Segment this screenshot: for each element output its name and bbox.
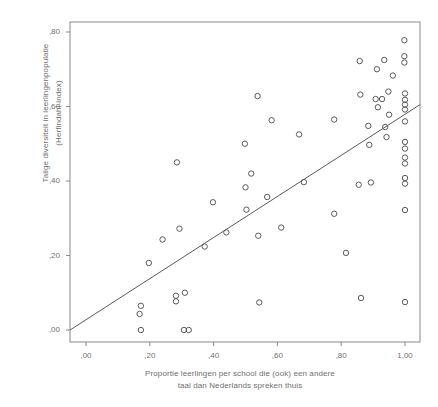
data-point	[146, 260, 151, 265]
data-point	[137, 311, 142, 316]
data-point	[331, 117, 336, 122]
data-point	[301, 179, 306, 184]
data-point	[402, 119, 407, 124]
data-point-group	[137, 37, 408, 332]
scatter-plot-figure: Talige diversiteit in leerlingenpopulati…	[0, 0, 438, 407]
x-axis-tick-label: ,00	[68, 351, 104, 360]
data-point	[356, 182, 361, 187]
data-point	[160, 237, 165, 242]
data-point	[202, 244, 207, 249]
data-point	[384, 134, 389, 139]
data-point	[382, 57, 387, 62]
data-point	[343, 250, 348, 255]
data-point	[174, 160, 179, 165]
data-point	[386, 112, 391, 117]
y-axis-title-line2: (Herfindahl-index)	[52, 0, 65, 243]
data-point	[390, 73, 395, 78]
y-axis-title-line1: Talige diversiteit in leerlingenpopulati…	[39, 0, 52, 243]
x-axis-tick-label: ,80	[323, 351, 359, 360]
data-point	[402, 37, 407, 42]
data-point	[366, 123, 371, 128]
y-axis-tick-label: ,80	[30, 27, 60, 36]
plot-canvas	[0, 0, 438, 407]
data-point	[257, 300, 262, 305]
x-axis-title: Proportie leerlingen per school die (ook…	[55, 368, 425, 392]
data-point	[242, 141, 247, 146]
x-axis-tick-label: ,40	[196, 351, 232, 360]
data-point	[402, 161, 407, 166]
data-point	[402, 91, 407, 96]
data-point	[173, 293, 178, 298]
y-axis-tick-label: ,00	[30, 325, 60, 334]
data-point	[210, 200, 215, 205]
data-point	[402, 146, 407, 151]
data-point	[402, 207, 407, 212]
y-axis-tick-label: ,20	[30, 251, 60, 260]
data-point	[402, 155, 407, 160]
data-point	[358, 92, 363, 97]
data-point	[173, 299, 178, 304]
data-point	[331, 211, 336, 216]
data-point	[358, 295, 363, 300]
x-axis-tick-label: ,60	[259, 351, 295, 360]
y-axis-tick-label: ,60	[30, 102, 60, 111]
data-point	[375, 105, 380, 110]
regression-line	[70, 105, 420, 330]
x-axis-tick-label: ,20	[132, 351, 168, 360]
data-point	[357, 58, 362, 63]
x-axis-tick-label: 1,00	[387, 351, 423, 360]
data-point	[138, 303, 143, 308]
data-point	[402, 181, 407, 186]
data-point	[379, 96, 384, 101]
y-axis-tick-label: ,40	[30, 176, 60, 185]
x-axis-title-line2: taal dan Nederlands spreken thuis	[55, 380, 425, 392]
data-point	[269, 118, 274, 123]
data-point	[368, 180, 373, 185]
data-point	[182, 290, 187, 295]
data-point	[264, 194, 269, 199]
data-point	[255, 93, 260, 98]
data-point	[373, 96, 378, 101]
data-point	[402, 139, 407, 144]
data-point	[243, 185, 248, 190]
data-point	[249, 171, 254, 176]
data-point	[224, 230, 229, 235]
data-point	[402, 54, 407, 59]
data-point	[386, 89, 391, 94]
data-point	[367, 142, 372, 147]
data-point	[256, 233, 261, 238]
data-point	[402, 175, 407, 180]
data-point	[402, 60, 407, 65]
data-point	[402, 299, 407, 304]
data-point	[279, 225, 284, 230]
plot-frame	[70, 22, 420, 342]
y-axis-title: Talige diversiteit in leerlingenpopulati…	[39, 0, 65, 243]
data-point	[296, 132, 301, 137]
data-point	[177, 226, 182, 231]
data-point	[374, 67, 379, 72]
x-axis-title-line1: Proportie leerlingen per school die (ook…	[55, 368, 425, 380]
data-point	[244, 207, 249, 212]
data-point	[138, 327, 143, 332]
